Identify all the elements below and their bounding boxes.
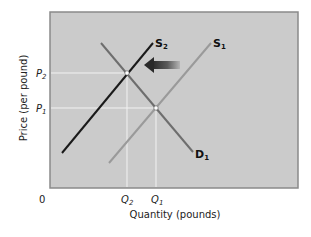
x-axis-title: Quantity (pounds) (130, 209, 221, 220)
tick-q1: Q1 (151, 194, 163, 207)
y-axis-title: Price (per pound) (18, 55, 29, 142)
supply-demand-diagram: S2 S1 D1 P2 P1 Q2 Q1 0 Quantity (pounds)… (0, 0, 311, 237)
plot-area (50, 12, 298, 188)
tick-p2: P2 (36, 68, 47, 81)
equilibrium-point-original (154, 106, 158, 110)
origin-label: 0 (39, 194, 45, 205)
tick-p1: P1 (36, 103, 47, 116)
tick-q2: Q2 (121, 194, 134, 207)
equilibrium-point-new (125, 71, 129, 75)
